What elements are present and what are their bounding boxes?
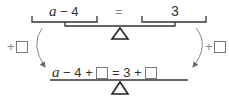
minus-four: − 4 [57, 4, 79, 19]
bottom-right-box [145, 67, 157, 79]
left-add-box [16, 41, 28, 53]
bottom-fulcrum-icon [112, 82, 128, 94]
top-right-value: 3 [171, 4, 179, 18]
plus-sign: + [205, 39, 213, 54]
top-fulcrum-icon [112, 28, 128, 39]
top-equals: = [115, 5, 123, 19]
bottom-left-box [96, 67, 108, 79]
right-curved-arrow-icon [193, 28, 202, 67]
left-add-operation: + [7, 40, 28, 54]
top-left-expression: a − 4 [49, 4, 79, 19]
right-add-operation: + [205, 40, 226, 54]
variable-a: a [52, 64, 60, 80]
bottom-right-rest: = 3 + [108, 65, 145, 80]
plus-sign: + [7, 39, 15, 54]
bottom-left-rest: − 4 + [60, 65, 97, 80]
right-add-box [214, 41, 226, 53]
balance-diagram: a − 4 = 3 + + a − 4 + = 3 + [0, 0, 229, 99]
left-curved-arrow-icon [37, 28, 45, 67]
bottom-equation: a − 4 + = 3 + [52, 65, 157, 80]
variable-a: a [49, 3, 57, 19]
